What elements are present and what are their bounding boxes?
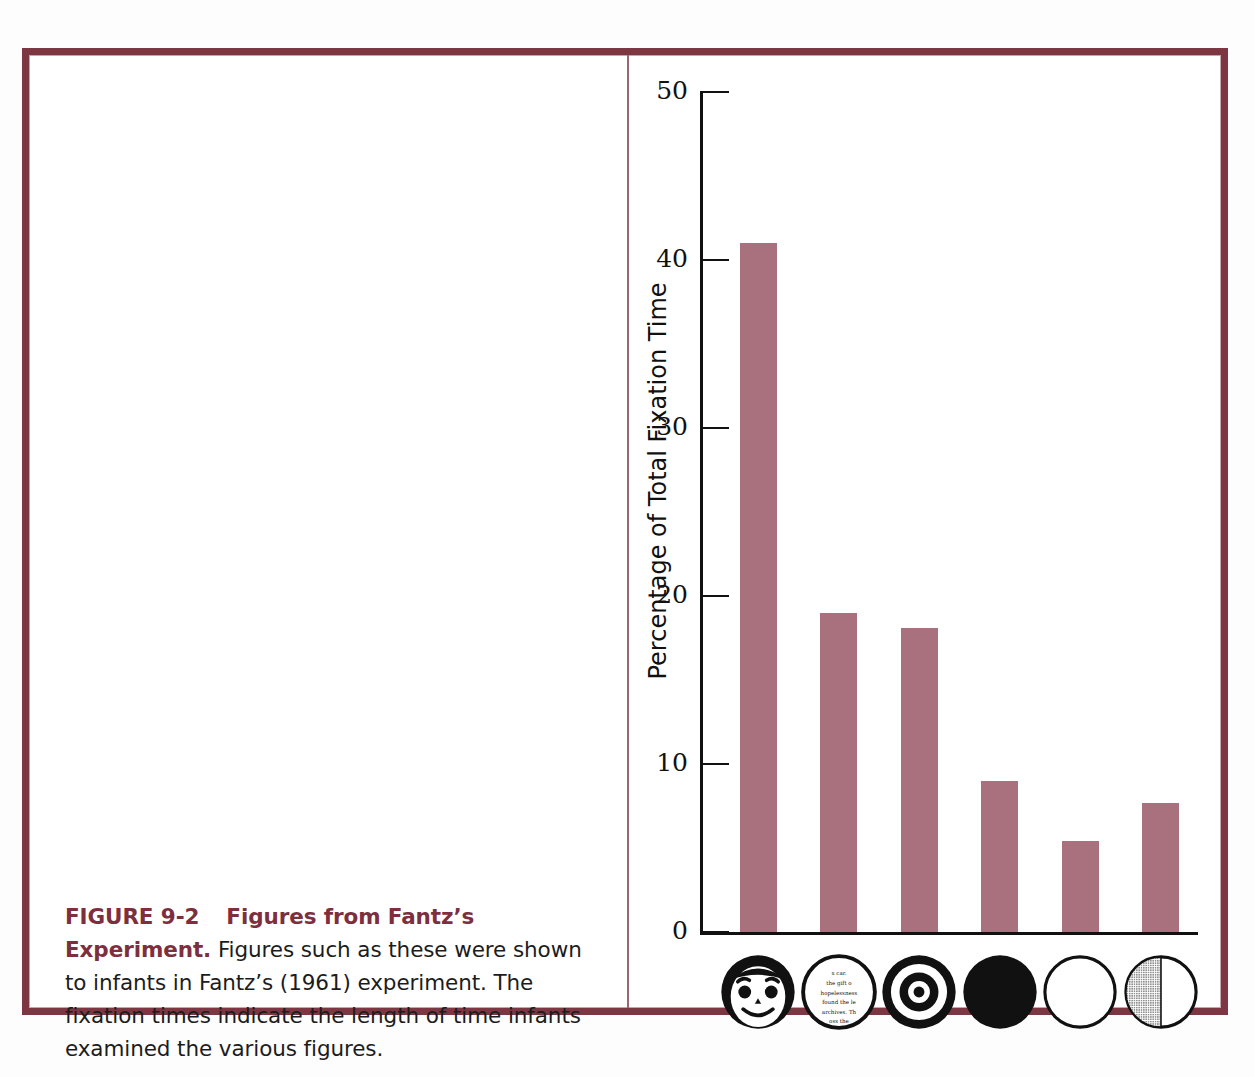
y-axis-line bbox=[700, 91, 703, 934]
y-tick-50 bbox=[703, 91, 729, 93]
svg-text:oss the: oss the bbox=[829, 1018, 849, 1024]
half-shaded-stimulus bbox=[1122, 953, 1200, 1031]
bar-3 bbox=[901, 628, 938, 932]
bar-5 bbox=[1062, 841, 1099, 932]
svg-text:the gift o: the gift o bbox=[826, 980, 852, 987]
figure-label: FIGURE 9-2 bbox=[65, 904, 199, 929]
white-stimulus bbox=[1041, 953, 1119, 1031]
outline-white-circle-icon bbox=[1041, 953, 1119, 1031]
svg-text:x car.: x car. bbox=[831, 970, 846, 976]
y-tick-30 bbox=[703, 427, 729, 429]
y-tick-label-10: 10 bbox=[642, 748, 688, 777]
newsprint-stimulus: x car.the gift ohopelessnessfound the le… bbox=[800, 953, 878, 1031]
face-stimulus bbox=[719, 953, 797, 1031]
svg-text:found the le: found the le bbox=[822, 999, 856, 1005]
y-tick-label-0: 0 bbox=[642, 916, 688, 945]
svg-text:archives. Th: archives. Th bbox=[821, 1009, 856, 1015]
y-tick-label-30: 30 bbox=[642, 412, 688, 441]
bar-1 bbox=[740, 243, 777, 932]
bar-6 bbox=[1142, 803, 1179, 932]
half-shaded-circle-icon bbox=[1122, 953, 1200, 1031]
bar-chart: Percentage of Total Fixation Time 010203… bbox=[629, 55, 1227, 1008]
y-tick-label-50: 50 bbox=[642, 76, 688, 105]
smiley-face-circle-icon bbox=[719, 953, 797, 1031]
y-tick-label-40: 40 bbox=[642, 244, 688, 273]
y-tick-40 bbox=[703, 259, 729, 261]
y-tick-label-20: 20 bbox=[642, 580, 688, 609]
figure-caption: FIGURE 9-2 Figures from Fantz’s Experime… bbox=[65, 900, 605, 1065]
y-tick-0 bbox=[703, 931, 729, 933]
svg-text:hopelessness: hopelessness bbox=[820, 990, 857, 997]
bar-2 bbox=[820, 613, 857, 932]
x-axis-line bbox=[700, 932, 1198, 935]
solid-black-circle-icon bbox=[961, 953, 1039, 1031]
caption-gap bbox=[206, 904, 219, 929]
newsprint-circle-icon: x car.the gift ohopelessnessfound the le… bbox=[800, 953, 878, 1031]
black-stimulus bbox=[961, 953, 1039, 1031]
bar-4 bbox=[981, 781, 1018, 932]
y-tick-10 bbox=[703, 763, 729, 765]
bullseye-circle-icon bbox=[880, 953, 958, 1031]
y-tick-20 bbox=[703, 595, 729, 597]
figure-page: FIGURE 9-2 Figures from Fantz’s Experime… bbox=[0, 0, 1254, 1077]
bullseye-stimulus bbox=[880, 953, 958, 1031]
figure-frame-border: FIGURE 9-2 Figures from Fantz’s Experime… bbox=[22, 48, 1228, 1015]
y-axis-title: Percentage of Total Fixation Time bbox=[644, 221, 672, 741]
